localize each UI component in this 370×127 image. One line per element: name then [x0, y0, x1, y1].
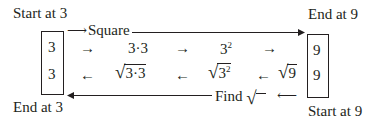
find-root-start-arrow-icon: ⟵ [277, 89, 297, 103]
bottom-arrow-4-icon: ← [80, 68, 95, 83]
square-flow-line [132, 32, 302, 33]
top-arrow-1-icon: → [80, 41, 95, 56]
top-arrow-3-icon: → [262, 41, 277, 56]
end-at-9-label: End at 9 [308, 7, 358, 22]
end-at-3-label: End at 3 [13, 100, 63, 115]
start-at-9-label: Start at 9 [308, 104, 362, 119]
bottom-step-sqrt-3-squared: √32 [208, 62, 231, 81]
square-end-arrowhead-icon [298, 28, 308, 37]
bottom-step-sqrt-9: √9 [278, 62, 297, 81]
left-top-value: 3 [48, 40, 56, 55]
find-root-operation-label: Find √ [215, 88, 266, 107]
top-arrow-2-icon: → [175, 41, 190, 56]
right-top-value: 9 [313, 43, 321, 58]
right-bottom-value: 9 [313, 68, 321, 83]
bottom-arrow-3-icon: ← [175, 68, 190, 83]
bottom-step-sqrt-3x3: √3·3 [115, 62, 146, 81]
left-bottom-value: 3 [48, 67, 56, 82]
top-step-3-squared: 32 [220, 41, 232, 57]
top-step-3x3: 3·3 [128, 41, 148, 56]
square-operation-label: Square [88, 23, 130, 38]
find-root-flow-line [72, 95, 212, 96]
radical-icon: √ [246, 88, 265, 107]
start-at-3-label: Start at 3 [13, 6, 67, 21]
bottom-arrow-2-icon: ← [256, 68, 271, 83]
square-start-arrow-icon: ⟶ [67, 24, 87, 38]
